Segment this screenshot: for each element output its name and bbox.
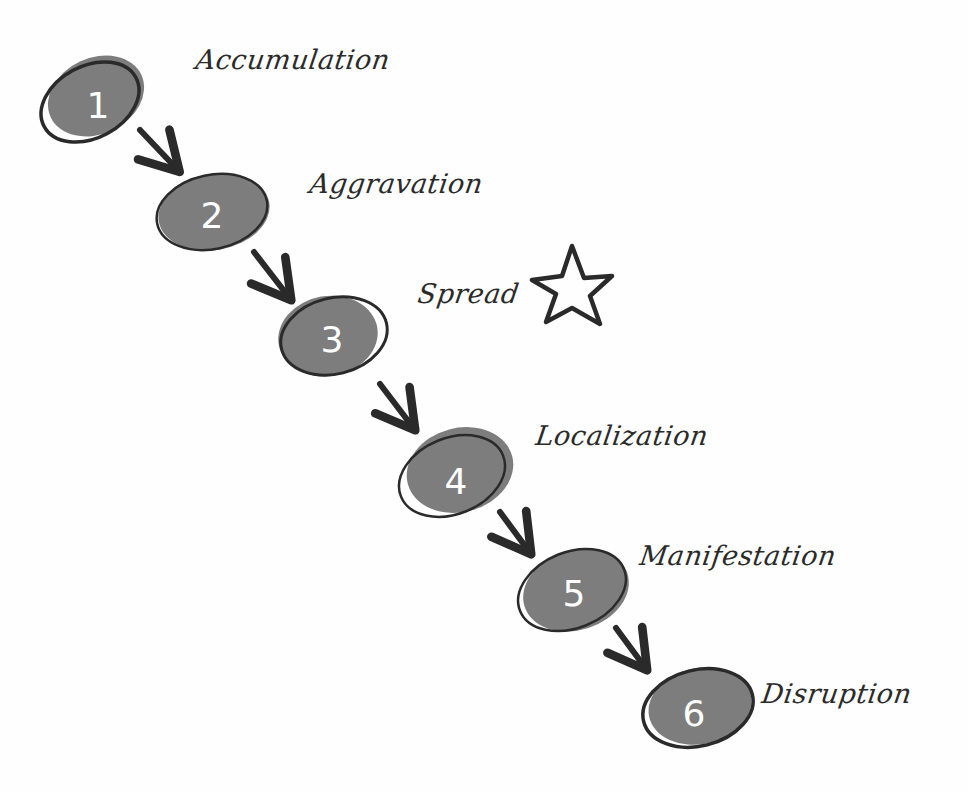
step-2-label: Aggravation — [308, 168, 485, 199]
step-4-number: 4 — [445, 461, 468, 502]
arrow-3-4 — [380, 384, 412, 426]
step-3-label: Spread — [416, 278, 521, 309]
step-2-node: 2 — [150, 164, 276, 260]
step-6-label: Disruption — [760, 678, 914, 709]
step-1-node: 1 — [27, 40, 157, 158]
arrow-5-6 — [616, 628, 644, 666]
step-6-number: 6 — [683, 693, 706, 734]
process-diagram: 1 2 3 4 5 6 — [0, 0, 968, 792]
step-2-number: 2 — [201, 195, 224, 236]
step-3-node: 3 — [272, 286, 396, 386]
step-3-number: 3 — [321, 319, 344, 360]
step-5-label: Manifestation — [638, 540, 839, 571]
step-6-node: 6 — [634, 658, 761, 759]
arrow-4-5 — [500, 512, 528, 550]
star-icon — [532, 246, 612, 324]
step-5-number: 5 — [563, 573, 586, 614]
step-1-number: 1 — [87, 85, 110, 126]
step-4-label: Localization — [534, 420, 710, 451]
arrow-2-3 — [254, 252, 288, 296]
arrow-1-2 — [140, 130, 176, 168]
step-1-label: Accumulation — [194, 44, 392, 75]
